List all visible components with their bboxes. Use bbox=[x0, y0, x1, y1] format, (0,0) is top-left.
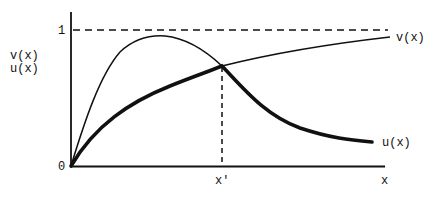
y-axis-label-v: v(x) bbox=[10, 49, 39, 63]
thin-hump-curve bbox=[71, 36, 222, 166]
y-tick-one-label: 1 bbox=[58, 24, 65, 38]
v-curve-label: v(x) bbox=[396, 31, 425, 45]
v-curve bbox=[222, 37, 390, 66]
u-curve-label: u(x) bbox=[382, 136, 411, 150]
x-axis-label: x bbox=[381, 174, 388, 188]
x-prime-label: x' bbox=[215, 174, 229, 188]
diagram-canvas: 1 v(x) u(x) 0 v(x) u(x) x' x bbox=[0, 0, 438, 197]
y-axis-label-u: u(x) bbox=[10, 62, 39, 76]
origin-label: 0 bbox=[58, 160, 65, 174]
